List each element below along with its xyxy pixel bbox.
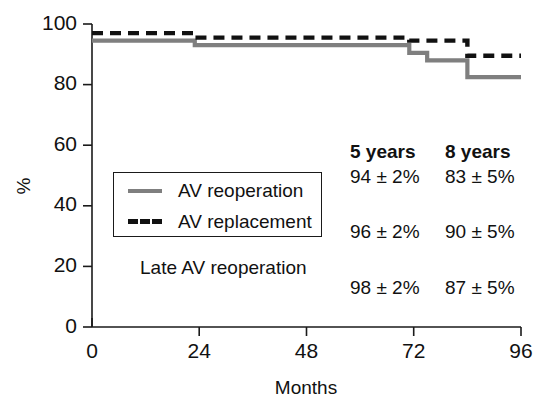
stats-cell-repl-8y: 90 ± 5% (445, 222, 540, 241)
x-tick-label-24: 24 (188, 339, 212, 362)
legend-item-av-reoperation: AV reoperation (128, 181, 303, 200)
series-line-av-reoperation (92, 41, 521, 77)
stats-cell-reop-8y: 83 ± 5% (445, 167, 540, 186)
y-tick-marks (83, 24, 92, 327)
stats-spacer-one (350, 186, 540, 222)
stats-row-av-reoperation: 94 ± 2% 83 ± 5% (350, 167, 540, 186)
y-axis-title: % (13, 177, 34, 194)
survival-curve-figure: 100 80 60 40 20 0 0 24 48 72 96 Months %… (0, 0, 546, 407)
stats-table: 5 years 8 years 94 ± 2% 83 ± 5% 96 ± 2% … (350, 142, 540, 297)
note-late-av-reoperation: Late AV reoperation (140, 258, 307, 277)
stats-cell-late-8y: 87 ± 5% (445, 278, 540, 297)
x-tick-label-72: 72 (402, 339, 425, 362)
stats-header-row: 5 years 8 years (350, 142, 540, 161)
legend-swatch-solid-gray-line-icon (128, 189, 162, 193)
y-tick-label-100: 100 (42, 11, 77, 34)
stats-header-8-years: 8 years (445, 142, 540, 161)
y-tick-label-0: 0 (65, 314, 77, 337)
legend-label-av-reoperation: AV reoperation (178, 181, 303, 200)
stats-header-5-years: 5 years (350, 142, 445, 161)
y-tick-label-20: 20 (54, 253, 77, 276)
x-tick-label-48: 48 (295, 339, 318, 362)
stats-row-av-replacement: 96 ± 2% 90 ± 5% (350, 222, 540, 241)
y-tick-label-80: 80 (54, 71, 77, 94)
stats-spacer-two (350, 241, 540, 278)
y-tick-label-60: 60 (54, 132, 77, 155)
legend-swatch-dashed-black-line-icon (128, 219, 162, 224)
stats-cell-reop-5y: 94 ± 2% (350, 167, 445, 186)
legend-label-av-replacement: AV replacement (178, 212, 312, 231)
stats-cell-late-5y: 98 ± 2% (350, 278, 445, 297)
x-tick-label-0: 0 (86, 339, 98, 362)
stats-cell-repl-5y: 96 ± 2% (350, 222, 445, 241)
x-axis-title: Months (275, 377, 337, 398)
legend-item-av-replacement: AV replacement (128, 212, 312, 231)
stats-row-late-av-reoperation: 98 ± 2% 87 ± 5% (350, 278, 540, 297)
x-tick-label-96: 96 (509, 339, 532, 362)
y-tick-label-40: 40 (54, 192, 77, 215)
